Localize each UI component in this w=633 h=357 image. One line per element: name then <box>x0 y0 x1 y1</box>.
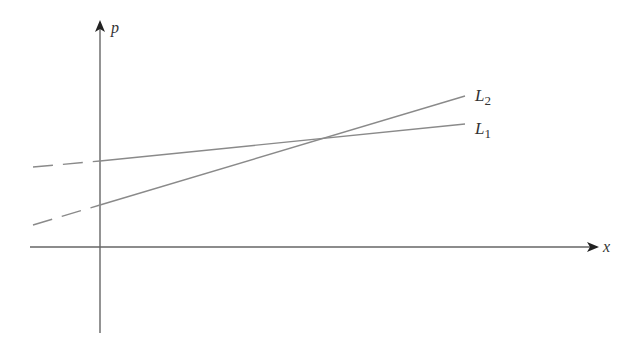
l2-dashed-extension <box>33 205 100 225</box>
p-axis-label: p <box>110 19 119 37</box>
l2-line <box>100 96 465 205</box>
x-axis-label: x <box>602 238 610 255</box>
l2-label-main: L <box>474 86 484 105</box>
l1-label: L1 <box>474 119 491 141</box>
l1-label-sub: 1 <box>484 126 491 141</box>
l1-label-main: L <box>474 119 484 138</box>
l2-label: L2 <box>474 86 491 108</box>
diagram-canvas: p x L2 L1 <box>0 0 633 357</box>
l1-line <box>100 124 465 161</box>
l1-dashed-extension <box>33 161 100 167</box>
l2-label-sub: 2 <box>484 93 491 108</box>
